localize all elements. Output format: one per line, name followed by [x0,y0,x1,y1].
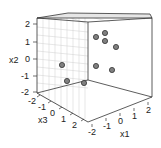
data-point [64,78,69,83]
x-tick-label: 1 [132,112,137,121]
data-point [109,67,114,72]
z-tick-label: 1 [25,38,30,47]
data-point [93,34,98,39]
data-point [113,44,118,49]
data-point [81,80,86,85]
x-tick-label: -1 [103,122,111,131]
z-axis-ticks [33,24,37,92]
data-point [59,62,64,67]
x-axis-title: x1 [120,130,130,139]
z-axis-title: x2 [9,56,19,65]
z-tick-label: 0 [25,55,30,64]
data-point [102,38,107,43]
z-tick-label: -1 [21,72,29,81]
y-tick-label: -1 [38,103,46,112]
x-tick-label: -2 [88,128,96,137]
y-axis-title: x3 [38,116,48,125]
data-points [59,30,118,85]
y-tick-label: 1 [61,115,66,124]
y-tick-label: -2 [28,97,36,106]
y-tick-label: 0 [50,109,55,118]
y-tick-label: 2 [72,121,77,130]
data-point [93,63,98,68]
data-point [102,30,107,35]
x-tick-label: 2 [146,106,151,115]
z-tick-label: 2 [25,20,30,29]
x-tick-label: 0 [118,117,123,126]
